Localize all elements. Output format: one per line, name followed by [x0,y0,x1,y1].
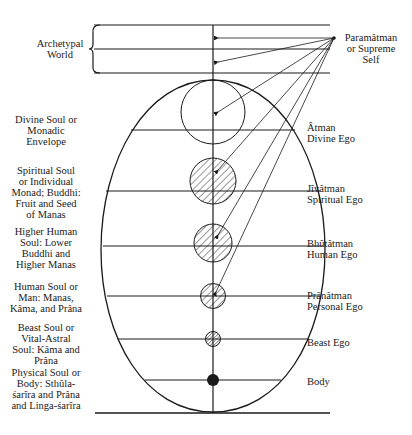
human-soul-sphere [201,284,226,309]
archetypal-world-label: Archetypal World [30,38,90,60]
pranatman-label: Prânâtman Personal Ego [307,290,363,312]
beast-soul-label: Beast Soul or Vital-Astral Soul: Kâma an… [0,322,92,366]
human-soul-label: Human Soul or Man: Manas, Kâma, and Prân… [0,281,92,314]
archetypal-world-box [89,25,330,73]
beast-ego-label: Beast Ego [307,337,350,348]
jivatman-label: Jîvâtman Spiritual Ego [307,183,363,205]
physical-soul-label: Physical Soul or Body: Sthûla- śarîra an… [0,367,92,411]
body-sphere [207,374,219,386]
body-label: Body [307,376,330,387]
paramatman-label: Paramâtman or Supreme Self [332,32,410,65]
beast-soul-sphere [206,332,221,347]
higher-human-soul-sphere [194,224,232,262]
divine-soul-label: Divine Soul or Monadic Envelope [0,114,92,147]
bhutatman-label: Bhûtâtman Human Ego [307,238,357,260]
higher-human-soul-label: Higher Human Soul: Lower Buddhi and High… [0,226,92,270]
spiritual-soul-label: Spiritual Soul or Individual Monad; Budd… [0,165,92,220]
spiritual-soul-sphere [190,158,236,204]
atman-label: Âtman Divine Ego [307,122,355,144]
